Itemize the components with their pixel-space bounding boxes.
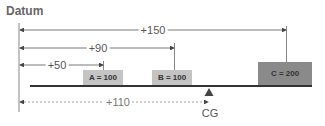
weight-b: B = 100	[152, 70, 192, 85]
weight-a: A = 100	[83, 70, 123, 85]
weight-c: C = 200	[258, 62, 312, 85]
dimension-90-label: +90	[87, 42, 110, 54]
dimension-50-label: +50	[46, 59, 69, 71]
datum-label: Datum	[6, 4, 43, 18]
fulcrum-triangle-icon	[205, 88, 214, 96]
cg-dimension-label: +110	[104, 96, 132, 108]
cg-label: CG	[202, 107, 219, 119]
dimension-150-label: +150	[139, 24, 168, 36]
